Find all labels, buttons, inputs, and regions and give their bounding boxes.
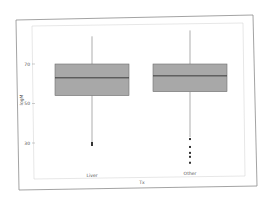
outlier-point — [189, 152, 191, 154]
y-tick-label: 50 — [24, 101, 30, 106]
outlier-point — [91, 142, 93, 144]
box-plot-chart: 305070 LiverOther Tx logM — [0, 0, 272, 201]
outlier-point — [189, 138, 191, 140]
outlier-point — [189, 162, 191, 164]
iqr-box — [55, 64, 129, 96]
x-tick-label: Other — [184, 171, 197, 176]
outlier-point — [189, 156, 191, 158]
y-axis-label: logM — [19, 95, 24, 106]
outlier-point — [91, 144, 93, 146]
outlier-point — [189, 146, 191, 148]
plot-area — [32, 23, 245, 179]
x-axis-label: Tx — [138, 180, 145, 185]
chart-page: 305070 LiverOther Tx logM — [0, 0, 272, 201]
iqr-box — [153, 64, 227, 92]
y-tick-label: 70 — [24, 62, 30, 67]
x-tick-label: Liver — [86, 173, 97, 178]
y-tick-label: 30 — [24, 141, 30, 146]
